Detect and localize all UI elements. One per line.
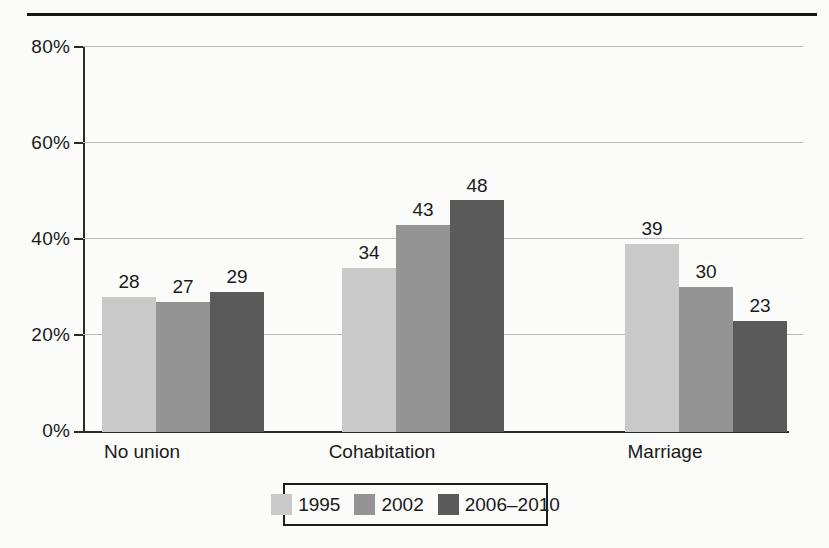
- legend-label: 2002: [381, 495, 423, 514]
- y-tick-label-0: 0%: [8, 420, 70, 442]
- legend-label: 1995: [298, 495, 340, 514]
- bar-value-label: 28: [102, 272, 156, 291]
- x-category-label-marriage: Marriage: [545, 441, 785, 463]
- bar-marriage-2002[interactable]: 30: [679, 46, 733, 432]
- bar-value-label: 39: [625, 219, 679, 238]
- bar-value-label: 29: [210, 267, 264, 286]
- y-tick-mark-60: [74, 142, 83, 144]
- bar-no-union-1995[interactable]: 28: [102, 46, 156, 432]
- legend-swatch-icon: [354, 494, 375, 515]
- y-tick-mark-0: [74, 431, 83, 433]
- bar-rect: [625, 244, 679, 432]
- y-tick-mark-80: [74, 46, 83, 48]
- y-axis-labels: 80% 60% 40% 20% 0%: [0, 0, 70, 548]
- y-tick-label-80: 80%: [8, 36, 70, 58]
- legend-swatch-icon: [271, 494, 292, 515]
- bar-rect: [210, 292, 264, 432]
- bar-rect: [156, 302, 210, 432]
- bar-no-union-2002[interactable]: 27: [156, 46, 210, 432]
- bar-rect: [396, 225, 450, 433]
- bar-cohabitation-1995[interactable]: 34: [342, 46, 396, 432]
- bar-value-label: 23: [733, 296, 787, 315]
- legend-item-2002[interactable]: 2002: [354, 494, 423, 515]
- legend-label: 2006–2010: [465, 495, 560, 514]
- figure-top-rule: [27, 13, 817, 16]
- y-tick-mark-40: [74, 238, 83, 240]
- bar-value-label: 27: [156, 277, 210, 296]
- bar-marriage-2006-2010[interactable]: 23: [733, 46, 787, 432]
- bar-rect: [342, 268, 396, 432]
- bar-value-label: 48: [450, 176, 504, 195]
- bar-group-no-union: 28 27 29: [102, 46, 264, 432]
- bar-no-union-2006-2010[interactable]: 29: [210, 46, 264, 432]
- bar-value-label: 30: [679, 262, 733, 281]
- x-category-label-cohabitation: Cohabitation: [262, 441, 502, 463]
- bar-rect: [102, 297, 156, 432]
- bar-cohabitation-2002[interactable]: 43: [396, 46, 450, 432]
- bar-group-cohabitation: 34 43 48: [342, 46, 504, 432]
- y-tick-label-40: 40%: [8, 228, 70, 250]
- bar-rect: [733, 321, 787, 432]
- bar-group-marriage: 39 30 23: [625, 46, 787, 432]
- legend-swatch-icon: [438, 494, 459, 515]
- bar-marriage-1995[interactable]: 39: [625, 46, 679, 432]
- y-tick-label-60: 60%: [8, 132, 70, 154]
- plot-area: 28 27 29 34 43 48: [83, 46, 803, 432]
- bar-cohabitation-2006-2010[interactable]: 48: [450, 46, 504, 432]
- bar-rect: [679, 287, 733, 432]
- legend-item-1995[interactable]: 1995: [271, 494, 340, 515]
- bar-value-label: 43: [396, 200, 450, 219]
- chart-legend: 1995 2002 2006–2010: [283, 483, 548, 526]
- y-tick-mark-20: [74, 334, 83, 336]
- chart-figure: 80% 60% 40% 20% 0% 28 27 29: [0, 0, 829, 548]
- bar-rect: [450, 200, 504, 432]
- legend-item-2006-2010[interactable]: 2006–2010: [438, 494, 560, 515]
- x-category-label-no-union: No union: [22, 441, 262, 463]
- y-tick-label-20: 20%: [8, 324, 70, 346]
- bar-value-label: 34: [342, 243, 396, 262]
